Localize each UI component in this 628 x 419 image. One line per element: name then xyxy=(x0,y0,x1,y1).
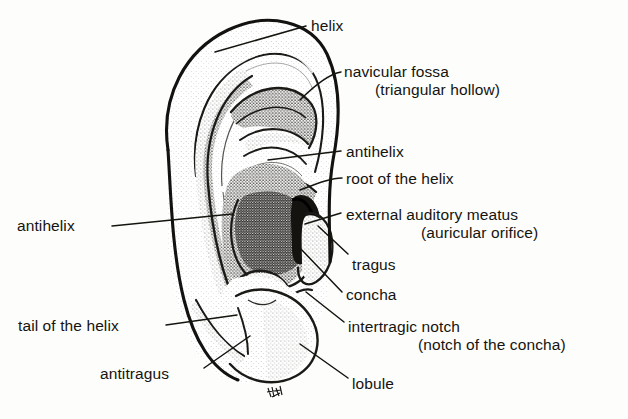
leader-intertragic-notch xyxy=(306,292,344,322)
leader-antihelix-right xyxy=(268,151,341,160)
label-intertragic-notch-text: intertragic notch xyxy=(348,318,460,335)
label-root-of-the-helix: root of the helix xyxy=(346,170,454,188)
label-tail-of-the-helix-text: tail of the helix xyxy=(18,317,119,334)
label-lobule-text: lobule xyxy=(352,375,394,392)
label-helix-text: helix xyxy=(311,17,343,34)
label-external-auditory-meatus: external auditory meatus (auricular orif… xyxy=(346,206,538,242)
label-intertragic-notch: intertragic notch (notch of the concha) xyxy=(348,318,566,354)
leader-tragus xyxy=(318,226,348,254)
label-concha-text: concha xyxy=(346,286,397,303)
leader-antitragus xyxy=(204,336,250,368)
leader-helix xyxy=(215,26,306,52)
leader-root-of-helix xyxy=(300,178,342,190)
label-tragus: tragus xyxy=(352,256,396,274)
label-antihelix-right-text: antihelix xyxy=(346,143,404,160)
leader-antihelix-left xyxy=(112,214,232,226)
leader-lobule xyxy=(300,344,348,378)
ear-anatomy-figure: helix navicular fossa (triangular hollow… xyxy=(0,0,628,419)
leader-external-auditory-meatus xyxy=(305,213,341,224)
label-concha: concha xyxy=(346,286,397,304)
label-helix: helix xyxy=(311,17,343,35)
label-antihelix-right: antihelix xyxy=(346,143,404,161)
label-external-auditory-meatus-text: external auditory meatus xyxy=(346,206,518,223)
leader-tail-of-the-helix xyxy=(166,315,237,325)
label-external-auditory-meatus-alt: (auricular orifice) xyxy=(346,224,538,242)
label-navicular-fossa-text: navicular fossa xyxy=(344,63,449,80)
leader-concha xyxy=(300,248,342,292)
label-intertragic-notch-alt: (notch of the concha) xyxy=(348,336,566,354)
leader-navicular-fossa xyxy=(300,72,341,100)
label-tail-of-the-helix: tail of the helix xyxy=(18,317,119,335)
label-tragus-text: tragus xyxy=(352,256,396,273)
label-antihelix-left: antihelix xyxy=(17,217,75,235)
label-antitragus: antitragus xyxy=(100,365,169,383)
label-navicular-fossa: navicular fossa (triangular hollow) xyxy=(344,63,500,99)
label-navicular-fossa-alt: (triangular hollow) xyxy=(344,81,500,99)
label-antihelix-left-text: antihelix xyxy=(17,217,75,234)
label-lobule: lobule xyxy=(352,375,394,393)
label-root-of-the-helix-text: root of the helix xyxy=(346,170,454,187)
label-antitragus-text: antitragus xyxy=(100,365,169,382)
